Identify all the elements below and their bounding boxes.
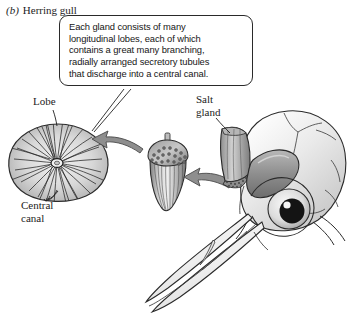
label-lobe: Lobe <box>33 95 56 108</box>
panel-letter: (b) <box>6 4 19 16</box>
label-salt-gland-line1: Salt <box>196 93 220 106</box>
callout-line-4: radially arranged secretory tubules <box>69 56 244 68</box>
figure-herring-gull-salt-gland: (b)Herring gull Each gland consists of m… <box>0 0 353 316</box>
label-central-canal: Central canal <box>21 199 53 224</box>
upper-mandible <box>146 214 252 302</box>
label-central-canal-line1: Central <box>21 199 53 212</box>
label-salt-gland: Salt gland <box>196 93 220 118</box>
gull-beak <box>146 214 264 312</box>
pupil <box>280 199 305 224</box>
callout-line-5: that discharge into a central canal. <box>69 68 244 80</box>
callout-box: Each gland consists of many longitudinal… <box>59 15 253 86</box>
lobe-cross-section <box>9 118 108 204</box>
callout-tail-line <box>92 89 131 132</box>
gull-eye <box>268 189 310 229</box>
label-salt-gland-line2: gland <box>196 106 220 119</box>
salt-gland-cut <box>221 127 250 187</box>
beak-commissure <box>149 224 256 306</box>
callout-line-2: longitudinal lobes, each of which <box>69 33 244 45</box>
salt-gland-acorn <box>148 133 188 211</box>
label-central-canal-line2: canal <box>21 212 53 225</box>
lower-mandible <box>152 222 264 312</box>
callout-line-3: contains a great many branching, <box>69 44 244 56</box>
callout-line-1: Each gland consists of many <box>69 21 244 33</box>
eye-highlight <box>283 201 290 208</box>
central-canal <box>51 159 63 168</box>
